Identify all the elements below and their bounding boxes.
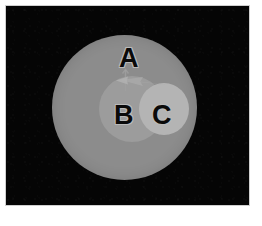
region-label-c: C xyxy=(152,102,172,129)
figure-root: A B C xyxy=(0,0,262,226)
image-panel: A B C xyxy=(6,6,249,205)
region-label-b: B xyxy=(114,102,134,129)
region-label-a: A xyxy=(119,45,139,72)
